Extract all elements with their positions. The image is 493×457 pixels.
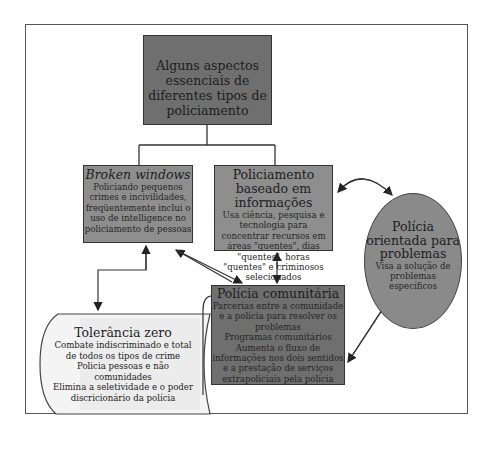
info-policing-title: Policiamento baseado em informações [215, 168, 332, 210]
broken-windows-title: Broken windows [84, 168, 192, 182]
info-policing-node: Policiamento baseado em informações Usa … [214, 165, 333, 251]
zero-tolerance-node: Tolerância zero Combate indiscriminado e… [48, 325, 198, 404]
zero-tolerance-line: Combate indiscriminado e total de todos … [48, 340, 198, 361]
community-title: Polícia comunitária [212, 287, 344, 301]
info-policing-description: Usa ciência, pesquisa e tecnologia para … [215, 210, 332, 283]
problem-oriented-node: Polícia orientada para problemas Visa a … [364, 193, 462, 329]
zero-tolerance-line: Elimina a seletividade e o poder discric… [48, 382, 198, 403]
root-node: Alguns aspectos essenciais de diferentes… [143, 35, 272, 125]
zero-tolerance-line: Policia pessoas e não comunidades [48, 361, 198, 382]
problem-oriented-title: Polícia orientada para problemas [365, 220, 461, 261]
community-line: Parcerias entre a comunidade e a polícia… [212, 301, 344, 332]
broken-windows-node: Broken windows Policiando pequenos crime… [83, 165, 193, 243]
broken-windows-description: Policiando pequenos crimes e incivilidad… [84, 182, 192, 234]
problem-oriented-description: Visa a solução de problemas específicos [365, 261, 461, 292]
root-label: Alguns aspectos essenciais de diferentes… [148, 58, 267, 118]
community-line: Programas comunitários [212, 332, 344, 342]
community-line: Aumenta o fluxo de informações nos dois … [212, 343, 344, 385]
zero-tolerance-title: Tolerância zero [48, 325, 198, 340]
community-policing-node: Polícia comunitária Parcerias entre a co… [211, 285, 345, 385]
